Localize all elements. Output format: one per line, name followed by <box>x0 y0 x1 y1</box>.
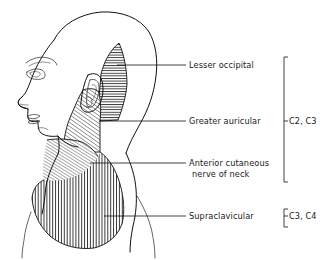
label-greater-auricular: Greater auricular <box>189 116 261 126</box>
label-anterior-cutaneous-line2: nerve of neck <box>192 169 249 179</box>
root-label-c3-c4: C3, C4 <box>289 211 317 221</box>
root-label-c2-c3: C2, C3 <box>289 116 317 126</box>
nerve-distribution-figure: Lesser occipital Greater auricular Anter… <box>0 0 324 260</box>
label-supraclavicular: Supraclavicular <box>189 211 254 221</box>
label-anterior-cutaneous-line1: Anterior cutaneous <box>189 158 269 168</box>
figure-canvas: Lesser occipital Greater auricular Anter… <box>0 0 324 260</box>
label-lesser-occipital: Lesser occipital <box>189 60 254 70</box>
